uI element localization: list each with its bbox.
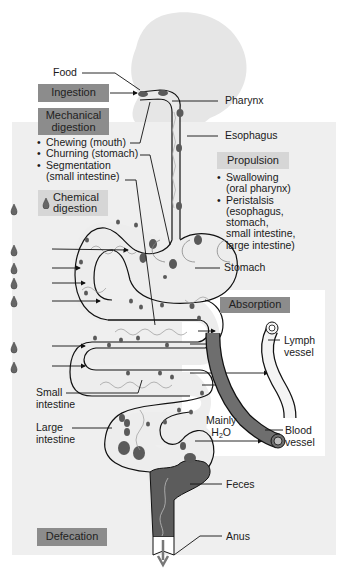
enzyme-drop-icon	[11, 342, 17, 353]
enzyme-drop-icon	[11, 263, 17, 274]
anus-label: Anus	[226, 531, 250, 543]
enzyme-drop-icon	[11, 245, 17, 256]
mechanical-digestion-box: Mechanical digestion	[38, 108, 109, 135]
blood-vessel-label: Bloodvessel	[285, 425, 315, 448]
enzyme-drop-icon	[11, 204, 17, 215]
defecation-box: Defecation	[37, 528, 107, 546]
ingestion-box: Ingestion	[38, 84, 109, 102]
food-label: Food	[53, 67, 77, 79]
mechanical-digestion-list: Chewing (mouth) Churning (stomach) Segme…	[37, 137, 138, 182]
feces-mass	[150, 460, 210, 537]
lymph-vessel-label: Lymphvessel	[284, 335, 315, 358]
propulsion-box: Propulsion	[217, 152, 289, 169]
list-item: Segmentation(small intestine)	[37, 160, 138, 183]
list-item: Peristalsis(esophagus,stomach,small inte…	[217, 195, 295, 251]
enzyme-drop-icon	[42, 197, 50, 209]
enzyme-drop-icon	[11, 296, 17, 307]
mechanical-digestion-label: Mechanical	[46, 110, 102, 122]
chemical-digestion-box: Chemical digestion	[38, 190, 108, 216]
stomach-label: Stomach	[224, 262, 265, 274]
pharynx-label: Pharynx	[225, 95, 264, 107]
feces-label: Feces	[226, 479, 255, 491]
chemical-digestion-label-2: digestion	[53, 203, 99, 215]
mechanical-digestion-label-2: digestion	[51, 122, 95, 134]
small-intestine-label: Smallintestine	[36, 387, 75, 410]
enzyme-drop-icon	[11, 278, 17, 289]
defecation-label: Defecation	[46, 531, 99, 543]
ingestion-label: Ingestion	[51, 87, 96, 99]
propulsion-label: Propulsion	[227, 155, 279, 167]
absorption-box: Absorption	[220, 297, 290, 313]
enzyme-drop-icon	[11, 362, 17, 373]
large-intestine-label: Largeintestine	[36, 422, 75, 445]
propulsion-list: Swallowing(oral pharynx) Peristalsis(eso…	[217, 172, 295, 251]
esophagus-label: Esophagus	[225, 130, 278, 142]
list-item: Swallowing(oral pharynx)	[217, 172, 295, 195]
absorption-label: Absorption	[229, 299, 282, 311]
mainly-h2o-label: Mainly H2O	[206, 415, 236, 441]
